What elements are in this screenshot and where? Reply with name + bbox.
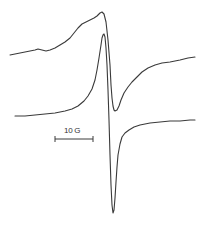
- epr-spectra-chart: [0, 0, 204, 232]
- scale-bar-label: 10 G: [64, 126, 80, 135]
- scale-bar: [55, 136, 93, 142]
- upper-spectrum-trace: [10, 12, 195, 111]
- lower-spectrum-trace: [15, 34, 195, 213]
